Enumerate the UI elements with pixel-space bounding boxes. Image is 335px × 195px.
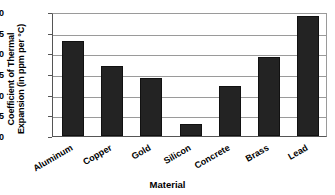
y-tick-label-0: 0	[0, 133, 4, 142]
y-axis-title-line-2: Expansion (in ppm per °C)	[16, 24, 27, 134]
y-tick-label-5: 5	[0, 112, 4, 121]
y-axis-title-line-1: Coefficient of Thermal	[6, 24, 17, 134]
bar-brass	[258, 57, 280, 136]
y-tick-mark-0	[48, 137, 52, 138]
y-tick-label-10: 10	[0, 92, 4, 101]
bar-silicon	[180, 124, 202, 136]
bar-concrete	[219, 86, 241, 136]
bar-gold	[140, 78, 162, 136]
plot-area	[52, 13, 327, 137]
bar-lead	[297, 16, 319, 136]
y-tick-label-20: 20	[0, 50, 4, 59]
y-tick-label-15: 15	[0, 71, 4, 80]
x-axis-title: Material	[0, 179, 335, 190]
y-tick-label-25: 25	[0, 30, 4, 39]
y-axis-title: Coefficient of Thermal Expansion (in ppm…	[1, 14, 31, 144]
bar-series	[53, 14, 326, 136]
bar-chart: Coefficient of Thermal Expansion (in ppm…	[0, 0, 335, 195]
bar-copper	[101, 66, 123, 136]
bar-aluminum	[62, 41, 84, 136]
y-tick-label-30: 30	[0, 9, 4, 18]
